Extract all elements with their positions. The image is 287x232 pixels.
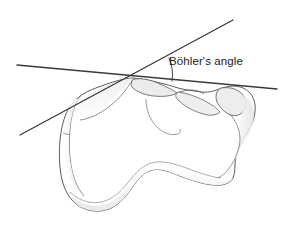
boehler-angle-label: Böhler's angle [169,55,243,68]
boehler-angle-figure: Böhler's angle [0,0,287,232]
figure-canvas [0,0,287,232]
